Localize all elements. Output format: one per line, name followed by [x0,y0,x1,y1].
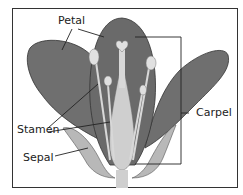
label-sepal: Sepal [23,152,54,163]
right-petal [145,50,229,148]
flower-diagram [0,0,243,195]
label-petal: Petal [58,15,85,26]
label-carpel: Carpel [196,107,232,118]
label-stamen: Stamen [17,124,60,135]
